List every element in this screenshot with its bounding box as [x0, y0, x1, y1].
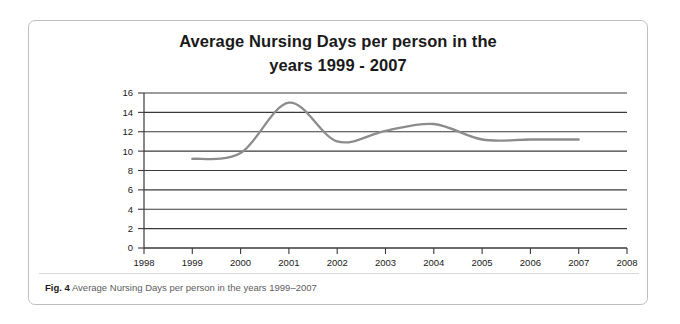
x-axis-tick-label: 2007: [568, 257, 589, 268]
chart-title-line-1: Average Nursing Days per person in the: [29, 29, 647, 53]
x-axis-tick-label: 2002: [327, 257, 348, 268]
figure-card: Average Nursing Days per person in the y…: [28, 20, 648, 305]
x-axis-tick-label: 2004: [423, 257, 444, 268]
x-axis-tick-label: 1998: [133, 257, 154, 268]
figure-caption-text: Average Nursing Days per person in the y…: [72, 282, 317, 293]
figure-caption-label: Fig. 4: [45, 282, 70, 293]
chart-plot-area: 0246810121416199819992000200120022003200…: [29, 79, 649, 279]
x-axis-tick-label: 1999: [182, 257, 203, 268]
y-axis-tick-label: 4: [128, 204, 133, 215]
x-axis-tick-label: 2005: [472, 257, 493, 268]
x-axis-tick-label: 2003: [375, 257, 396, 268]
y-axis-tick-label: 10: [122, 146, 133, 157]
y-axis-tick-label: 8: [128, 165, 133, 176]
x-axis-tick-label: 2008: [616, 257, 637, 268]
y-axis-tick-label: 16: [122, 87, 133, 98]
chart-title-line-2: years 1999 - 2007: [29, 53, 647, 77]
y-axis-tick-label: 2: [128, 223, 133, 234]
y-axis-tick-label: 14: [122, 107, 133, 118]
caption-divider: [39, 273, 639, 274]
x-axis-tick-label: 2006: [520, 257, 541, 268]
x-axis-tick-label: 2001: [278, 257, 299, 268]
chart-title: Average Nursing Days per person in the y…: [29, 29, 647, 77]
y-axis-tick-label: 12: [122, 126, 133, 137]
y-axis-tick-label: 6: [128, 184, 133, 195]
x-axis-tick-label: 2000: [230, 257, 251, 268]
y-axis-tick-label: 0: [128, 242, 133, 253]
line-chart: 0246810121416199819992000200120022003200…: [29, 79, 649, 279]
figure-caption: Fig. 4 Average Nursing Days per person i…: [45, 281, 633, 294]
